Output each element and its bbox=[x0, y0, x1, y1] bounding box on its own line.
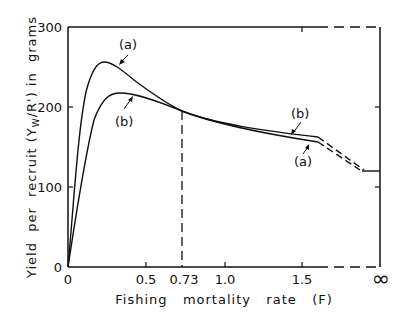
label-b-right: (b) bbox=[291, 106, 309, 121]
svg-text:100: 100 bbox=[37, 180, 62, 195]
label-a-top: (a) bbox=[119, 37, 137, 52]
svg-text:0.73: 0.73 bbox=[170, 272, 199, 287]
label-b-left: (b) bbox=[115, 114, 133, 129]
svg-text:∞: ∞ bbox=[372, 266, 390, 291]
curve-a bbox=[68, 62, 318, 267]
x-tick-labels: 0 0.5 0.73 1.0 1.5 ∞ bbox=[64, 266, 390, 291]
y-tick-labels: 0 100 200 300 bbox=[37, 20, 62, 275]
axes bbox=[68, 27, 380, 267]
curve-a-dashed bbox=[318, 142, 360, 170]
svg-text:0: 0 bbox=[54, 260, 62, 275]
curve-b-dashed bbox=[318, 137, 364, 170]
y-axis-label: Yield per recruit (YW/R') in grams bbox=[24, 16, 41, 279]
svg-text:1.0: 1.0 bbox=[215, 272, 236, 287]
svg-text:200: 200 bbox=[37, 100, 62, 115]
svg-text:300: 300 bbox=[37, 20, 62, 35]
x-axis-label: Fishing mortality rate (F) bbox=[115, 292, 333, 307]
svg-text:0.5: 0.5 bbox=[136, 272, 157, 287]
yield-per-recruit-chart: 0 100 200 300 0 0.5 0.73 1.0 1.5 ∞ Fishi… bbox=[0, 0, 410, 324]
curve-b bbox=[68, 93, 318, 267]
annotations: (a) (b) (b) (a) bbox=[115, 37, 312, 169]
svg-text:1.5: 1.5 bbox=[292, 272, 313, 287]
label-a-right: (a) bbox=[294, 154, 312, 169]
svg-text:0: 0 bbox=[64, 272, 72, 287]
ticks bbox=[68, 27, 380, 267]
